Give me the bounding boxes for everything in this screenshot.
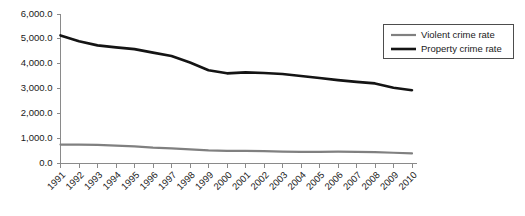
x-axis-tick-label: 2000 [211, 169, 234, 192]
chart-legend: Violent crime rateProperty crime rate [383, 25, 513, 59]
x-axis-tick-label: 2006 [322, 169, 345, 192]
x-axis-tick-label: 1998 [174, 169, 197, 192]
x-axis-tick-label: 1991 [45, 169, 68, 192]
axis-lines [61, 14, 418, 164]
x-axis-tick-label: 1994 [100, 169, 123, 192]
y-axis-tick-labels: 0.01,000.02,000.03,000.04,000.05,000.06,… [21, 8, 53, 169]
y-axis-tick-label: 3,000.0 [21, 82, 53, 93]
x-axis-tick-label: 2003 [267, 169, 290, 192]
y-axis-tick-label: 4,000.0 [21, 57, 53, 68]
x-axis-tick-label: 1996 [137, 169, 160, 192]
y-axis-tick-label: 0.0 [39, 157, 52, 168]
legend-label: Violent crime rate [421, 29, 495, 40]
x-axis-tick-label: 1999 [193, 169, 216, 192]
x-axis-tick-label: 2005 [304, 169, 327, 192]
line-chart: 0.01,000.02,000.03,000.04,000.05,000.06,… [0, 0, 525, 216]
legend-label: Property crime rate [421, 43, 502, 54]
chart-canvas: 0.01,000.02,000.03,000.04,000.05,000.06,… [0, 0, 525, 216]
x-axis-tick-label: 2001 [230, 169, 253, 192]
x-axis-tick-label: 1992 [63, 169, 86, 192]
x-axis-tick-label: 1995 [119, 169, 142, 192]
data-series-group [61, 35, 413, 153]
y-axis-tick-label: 1,000.0 [21, 132, 53, 143]
x-axis-tick-label: 1993 [82, 169, 105, 192]
series-line-violent-crime-rate [61, 145, 413, 154]
x-axis-tick-label: 2007 [341, 169, 364, 192]
x-axis-tick-label: 2004 [285, 169, 308, 192]
x-axis-tick-label: 1997 [156, 169, 179, 192]
x-axis-tick-label: 2008 [359, 169, 382, 192]
series-line-property-crime-rate [61, 35, 413, 90]
x-axis-tick-label: 2010 [396, 169, 419, 192]
y-axis-tick-label: 2,000.0 [21, 107, 53, 118]
x-axis-tick-label: 2009 [378, 169, 401, 192]
y-axis-tick-label: 6,000.0 [21, 8, 53, 19]
x-axis-tick-label: 2002 [248, 169, 271, 192]
x-axis-tick-marks [61, 164, 413, 168]
x-axis-tick-labels: 1991199219931994199519961997199819992000… [45, 169, 419, 192]
y-axis-tick-label: 5,000.0 [21, 32, 53, 43]
